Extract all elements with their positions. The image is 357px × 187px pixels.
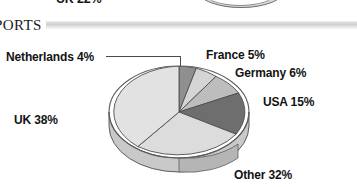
pie-chart (108, 58, 250, 180)
pie-label-usa: USA 15% (263, 95, 314, 109)
pie-label-uk: UK 38% (14, 113, 58, 127)
previous-chart-label-uk: UK 22% (56, 0, 101, 6)
leader-line-netherlands-horizontal (106, 56, 180, 57)
pie-label-netherlands: Netherlands 4% (6, 50, 94, 64)
pie-slices (114, 66, 245, 155)
previous-chart-remnant: UK 22% (0, 0, 357, 14)
page-title: PORTS (0, 17, 42, 34)
section-header: PORTS (0, 17, 357, 35)
pie-chart-svg (108, 58, 250, 180)
header-rule (46, 21, 357, 29)
